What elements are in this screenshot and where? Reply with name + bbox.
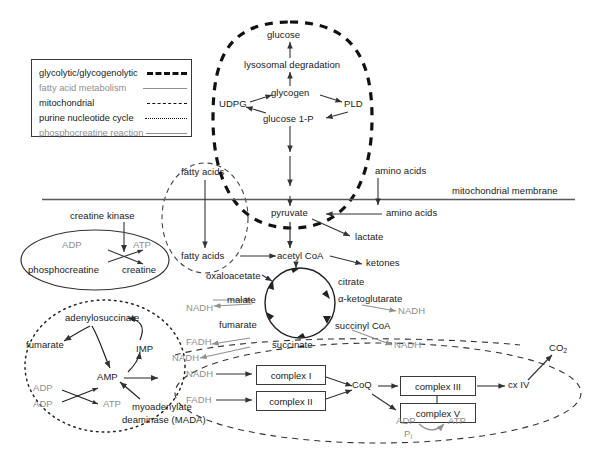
- node-alpha-ketoglutarate: α-ketoglutarate: [338, 294, 402, 304]
- arrow-pyruvate-to-lactate: [312, 219, 350, 236]
- legend-swatch-fatty-acid: [143, 88, 187, 89]
- legend-box: glycolytic/glycogenolytic fatty acid met…: [31, 59, 192, 137]
- node-fadh-succinate: FADH: [186, 337, 212, 347]
- arrow-oxaloacetate-to-cycle: [262, 275, 272, 281]
- node-nadh-etc-input: NADH: [186, 369, 213, 379]
- arrow-adp-to-amp: [62, 388, 98, 402]
- node-complex-i: complex I: [256, 365, 326, 385]
- arrow-adenylosuccinate-to-fumarate: [64, 326, 90, 341]
- arrow-nadh-right-from-ketoglutarate: [362, 305, 396, 311]
- node-fumarate-tca: fumarate: [219, 320, 257, 330]
- node-atp-etc: ATP: [448, 416, 466, 426]
- node-atp-creatine: ATP: [133, 240, 151, 250]
- arrow-pld-to-glucose1p: [326, 112, 348, 118]
- node-nadh-ketoglutarate: NADH: [398, 306, 425, 316]
- node-fatty-acids-inner: fatty acids: [181, 251, 224, 261]
- node-adp-purine-2: ADP: [33, 399, 53, 409]
- node-glucose-1-p: glucose 1-P: [263, 114, 314, 124]
- node-phosphocreatine: phosphocreatine: [28, 265, 99, 275]
- electron-transport-region-outline: [175, 343, 581, 443]
- node-malate: malate: [227, 295, 256, 305]
- node-glucose: glucose: [267, 30, 300, 40]
- node-co2: CO2: [549, 343, 567, 353]
- legend-item-fatty-acid: fatty acid metabolism: [39, 81, 187, 95]
- node-udpg: UDPG: [219, 99, 247, 109]
- legend-item-purine: purine nucleotide cycle: [39, 111, 187, 125]
- node-pld: PLD: [344, 99, 363, 109]
- co2-text: CO: [549, 342, 563, 353]
- legend-label-purine: purine nucleotide cycle: [39, 113, 134, 123]
- co2-subscript: 2: [563, 347, 567, 354]
- label-mitochondrial-membrane: mitochondrial membrane: [452, 186, 558, 196]
- glycolytic-region-outline: [213, 22, 372, 228]
- node-lactate: lactate: [355, 232, 383, 242]
- node-adp-creatine: ADP: [62, 240, 82, 250]
- legend-label-phosphocreatine: phosphocreatine reaction: [39, 128, 143, 138]
- node-coq: CoQ: [352, 380, 372, 390]
- arrow-complex1-to-coq: [326, 377, 352, 386]
- node-acetyl-coa: acetyl CoA: [277, 251, 323, 261]
- node-pyruvate: pyruvate: [271, 208, 308, 218]
- legend-swatch-purine: [145, 118, 187, 119]
- arrow-adp-to-atp-purine: [62, 390, 98, 404]
- node-citrate: citrate: [338, 277, 364, 287]
- node-succinate: succinate: [272, 340, 313, 350]
- node-nadh-succinylcoa: NADH: [394, 340, 421, 350]
- diagram-canvas: glycolytic/glycogenolytic fatty acid met…: [0, 0, 591, 460]
- node-atp-purine: ATP: [103, 399, 121, 409]
- legend-swatch-phosphocreatine: [146, 133, 187, 134]
- node-adp-purine-1: ADP: [33, 383, 53, 393]
- node-amino-acids-outer: amino acids: [375, 166, 426, 176]
- label-mada-line2: deaminase (MADA): [122, 415, 206, 425]
- node-succinyl-coa: succinyl CoA: [335, 321, 391, 331]
- arrow-glycogen-to-pld: [320, 95, 342, 102]
- arrow-acetylcoa-to-ketones: [330, 256, 362, 264]
- label-creatine-kinase: creatine kinase: [70, 211, 135, 221]
- arrow-cxiv-to-co2: [528, 355, 552, 380]
- node-nadh-malate: NADH: [186, 303, 213, 313]
- label-mada-line1: myoadenylate: [132, 402, 192, 412]
- node-fadh-etc-input: FADH: [186, 395, 212, 405]
- arrow-mada-to-amp: [120, 382, 140, 399]
- node-nadh-fumarate: NADH: [172, 353, 199, 363]
- node-adp-etc: ADP: [396, 416, 416, 426]
- node-pi: Pi: [404, 429, 412, 439]
- node-glycogen: glycogen: [271, 88, 309, 98]
- arrow-udpg-to-glycogen: [250, 95, 272, 102]
- node-amp: AMP: [97, 372, 118, 382]
- legend-label-fatty-acid: fatty acid metabolism: [39, 83, 126, 93]
- legend-label-glycolytic: glycolytic/glycogenolytic: [39, 68, 138, 78]
- arrow-complex2-to-coq: [326, 390, 352, 399]
- node-imp: IMP: [136, 344, 153, 354]
- node-lysosomal-degradation: lysosomal degradation: [244, 60, 340, 70]
- arrow-fadh-from-succinate: [212, 338, 250, 344]
- arrow-adenylosuccinate-to-amp: [92, 326, 110, 368]
- arrow-adp-pi-to-atp: [419, 424, 444, 430]
- arrow-coq-to-complex5: [372, 394, 396, 410]
- node-fatty-acids-outer: fatty acids: [181, 167, 224, 177]
- pi-subscript: i: [410, 433, 412, 440]
- arrow-amp-to-imp: [128, 352, 140, 372]
- node-amino-acids-inner: amino acids: [386, 208, 437, 218]
- legend-label-mitochondrial: mitochondrial: [39, 98, 94, 108]
- node-oxaloacetate: oxaloacetate: [206, 271, 260, 281]
- node-complex-iii: complex III: [400, 376, 476, 396]
- legend-swatch-mitochondrial: [147, 103, 187, 104]
- legend-item-glycolytic: glycolytic/glycogenolytic: [39, 66, 187, 80]
- legend-swatch-glycolytic: [147, 72, 187, 75]
- node-creatine: creatine: [122, 265, 156, 275]
- legend-item-mitochondrial: mitochondrial: [39, 96, 187, 110]
- node-fumarate-purine: fumarate: [26, 340, 64, 350]
- node-adenylosuccinate: adenylosuccinate: [65, 313, 139, 323]
- node-complex-ii: complex II: [256, 391, 326, 411]
- legend-item-phosphocreatine: phosphocreatine reaction: [39, 126, 187, 140]
- tca-cycle-circle: [265, 268, 335, 338]
- node-cx-iv: cx IV: [508, 380, 529, 390]
- node-ketones: ketones: [366, 258, 400, 268]
